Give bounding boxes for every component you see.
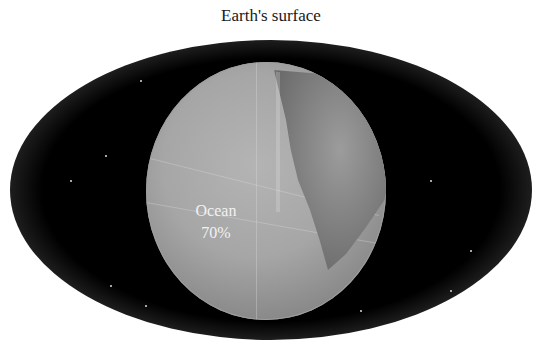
star-icon [110, 285, 112, 287]
earth-globe [146, 62, 386, 320]
meridian-line [256, 62, 257, 320]
star-icon [470, 250, 472, 252]
ocean-label: Ocean [176, 202, 256, 220]
grid-highlight [276, 72, 280, 212]
star-icon [360, 310, 362, 312]
star-icon [450, 290, 452, 292]
ocean-percentage: 70% [176, 224, 256, 242]
star-icon [145, 305, 147, 307]
figure-title: Earth's surface [0, 6, 542, 26]
star-icon [140, 80, 142, 82]
star-icon [430, 180, 432, 182]
star-icon [70, 180, 72, 182]
star-icon [105, 155, 107, 157]
